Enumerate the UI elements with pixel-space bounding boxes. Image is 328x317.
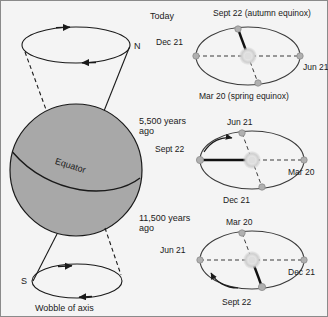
orbit-label-bottom-0: Mar 20 (spring equinox) [199, 91, 289, 101]
orbit-era-label-0: Today [150, 11, 175, 21]
orbit-node-left-1 [196, 156, 203, 163]
orbit-label-left-2: Jun 21 [160, 245, 186, 255]
orbit-node-left-2 [197, 257, 203, 263]
orbit-label-right-1: Mar 20 [288, 167, 315, 177]
sun-core-1 [248, 156, 255, 163]
orbit-era-label-2: 11,500 years [139, 213, 191, 223]
south-arrow-bottom-icon [79, 297, 92, 298]
orbit-node-right-1 [301, 157, 307, 163]
orbit-label-bottom-2: Sept 22 [222, 297, 252, 307]
orbit-label-top-1: Jun 21 [227, 117, 253, 127]
orbit-node-top-1 [239, 130, 245, 136]
orbit-label-right-0: Jun 21 [303, 62, 328, 72]
orbit-era-label-2-line2: ago [139, 223, 154, 233]
north-pole-label: N [134, 41, 141, 51]
orbit-label-top-2: Mar 20 [226, 217, 253, 227]
orbit-node-bottom-0 [255, 80, 261, 86]
orbit-label-left-0: Dec 21 [156, 37, 183, 47]
orbit-node-top-2 [239, 230, 245, 236]
orbit-era-label-1: 5,500 years [139, 116, 187, 126]
sun-core-2 [248, 256, 255, 263]
orbit-node-bottom-1 [259, 184, 265, 190]
sun-core-0 [244, 52, 251, 59]
south-arrow-top-icon [58, 266, 72, 267]
orbit-label-bottom-1: Dec 21 [223, 195, 250, 205]
orbit-node-top-0 [235, 26, 241, 32]
orbit-label-top-0: Sept 22 (autumn equinox) [213, 8, 311, 18]
south-pole-label: S [21, 276, 27, 286]
wobble-caption: Wobble of axis [35, 303, 94, 313]
orbit-label-left-1: Sept 22 [155, 144, 185, 154]
orbit-node-bottom-2 [258, 283, 265, 290]
orbit-node-left-0 [193, 53, 199, 59]
orbit-node-right-0 [297, 53, 303, 59]
orbit-label-right-2: Dec 21 [288, 267, 315, 277]
orbit-node-right-2 [301, 257, 307, 263]
orbit-era-label-1-line2: ago [139, 126, 154, 136]
diagram-canvas: Equator N S Wobble of axis Today Sept 22… [0, 0, 328, 317]
